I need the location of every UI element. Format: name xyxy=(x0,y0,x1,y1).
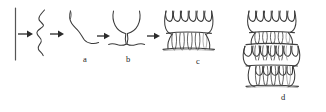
stage-label-c: c xyxy=(196,57,200,66)
arrow-1 xyxy=(18,31,33,38)
random-coil-chain xyxy=(37,10,45,56)
figure-canvas xyxy=(0,0,326,112)
stage-b-folded-nucleus xyxy=(109,11,145,45)
lamella-c-stems xyxy=(172,33,207,49)
stage-a-extended-chain xyxy=(70,11,99,44)
stage-label-b: b xyxy=(126,55,130,64)
arrow-3 xyxy=(97,33,110,39)
arrow-4 xyxy=(147,33,160,39)
lamella-d-layer-3 xyxy=(246,66,298,87)
stage-label-a: a xyxy=(83,55,87,64)
stage-d-stacked-lamellae xyxy=(243,11,299,88)
stage-label-d: d xyxy=(281,93,285,102)
lamella-c-folds xyxy=(166,11,212,21)
lamella-d-layer-2 xyxy=(243,46,299,67)
polymer-crystallization-figure: a b c d xyxy=(0,0,326,112)
lamella-d-layer-1 xyxy=(248,11,296,44)
arrow-2 xyxy=(50,31,64,38)
stage-c-single-lamella xyxy=(163,11,214,51)
